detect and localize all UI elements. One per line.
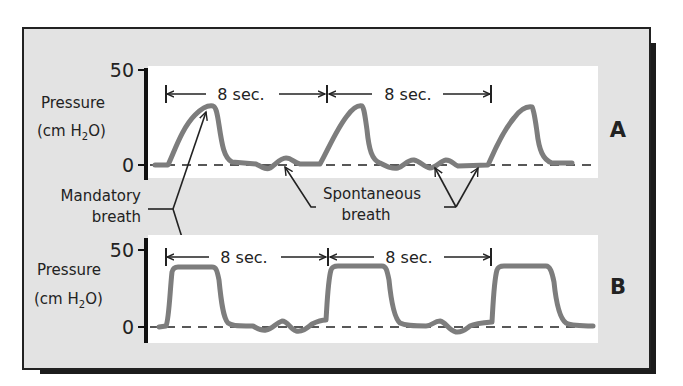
panel-a-tick-label-50: 50	[110, 59, 134, 81]
panel-a-tick-label-0: 0	[122, 154, 134, 176]
mandatory-breath-label-line1: Mandatory	[61, 187, 142, 205]
mandatory-breath-label-line2: breath	[92, 208, 141, 226]
panel-a-y-title-line2: (cm H2O)	[37, 122, 106, 142]
panel-a: 50 0 Pressure (cm H2O) 8 sec. 8 sec. A	[37, 59, 627, 180]
spontaneous-breath-label-line1: Spontaneous	[323, 185, 421, 203]
panel-b-tick-label-0: 0	[122, 316, 134, 338]
ventilation-diagram: 50 0 Pressure (cm H2O) 8 sec. 8 sec. A M…	[0, 0, 683, 386]
panel-a-plot-area	[148, 66, 598, 178]
panel-b-label: B	[610, 275, 626, 299]
panel-b-interval-1-label: 8 sec.	[220, 248, 267, 267]
panel-a-y-title-line1: Pressure	[41, 94, 105, 112]
panel-a-interval-2-label: 8 sec.	[384, 85, 431, 104]
panel-b-interval-2-label: 8 sec.	[385, 248, 432, 267]
panel-b-tick-label-50: 50	[110, 239, 134, 261]
panel-b: 50 0 Pressure (cm H2O) 8 sec. 8 sec. B	[34, 235, 626, 343]
panel-b-y-title-line2: (cm H2O)	[34, 290, 103, 310]
panel-b-y-title-line1: Pressure	[37, 261, 101, 279]
panel-a-interval-1-label: 8 sec.	[217, 85, 264, 104]
panel-a-label: A	[610, 118, 627, 142]
spontaneous-breath-label-line2: breath	[341, 206, 390, 224]
